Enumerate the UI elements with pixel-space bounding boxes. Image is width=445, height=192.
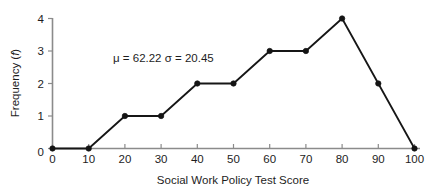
chart-figure: 0 1 2 3 4 0 10 20 30 40 50: [0, 0, 445, 192]
mean-sigma-annotation: μ = 62.22 σ = 20.45: [113, 52, 214, 64]
x-tick-label-90: 90: [372, 153, 385, 165]
y-axis-tick-labels: 0 1 2 3 4: [38, 13, 45, 159]
data-point: [158, 113, 163, 118]
x-tick-label-0: 0: [49, 153, 55, 165]
y-tick-label-0: 0: [38, 146, 44, 158]
y-axis-title-prefix: Frequency (: [9, 56, 21, 118]
x-tick-label-80: 80: [336, 153, 349, 165]
data-point: [339, 16, 344, 21]
data-point: [195, 81, 200, 86]
x-tick-label-100: 100: [405, 153, 424, 165]
x-tick-label-40: 40: [191, 153, 204, 165]
frequency-data-points: [50, 16, 417, 151]
data-point: [50, 146, 55, 151]
x-tick-label-30: 30: [155, 153, 168, 165]
y-tick-label-3: 3: [38, 45, 44, 57]
x-tick-label-50: 50: [227, 153, 240, 165]
y-axis-title-suffix: ): [9, 49, 21, 53]
data-point: [303, 48, 308, 53]
x-tick-label-70: 70: [300, 153, 313, 165]
y-tick-label-2: 2: [38, 78, 44, 90]
y-tick-label-4: 4: [38, 13, 45, 25]
data-point: [412, 146, 417, 151]
x-axis-title: Social Work Policy Test Score: [157, 174, 309, 186]
x-axis-tick-labels: 0 10 20 30 40 50 60 70 80 90 100: [49, 153, 424, 165]
y-axis-title: Frequency (f): [9, 49, 21, 118]
frequency-polygon-chart: 0 1 2 3 4 0 10 20 30 40 50: [0, 0, 445, 192]
data-point: [267, 48, 272, 53]
data-point: [231, 81, 236, 86]
data-point: [122, 113, 127, 118]
data-point: [86, 146, 91, 151]
y-tick-label-1: 1: [38, 110, 44, 122]
data-point: [376, 81, 381, 86]
x-tick-label-10: 10: [82, 153, 95, 165]
x-tick-label-20: 20: [119, 153, 132, 165]
x-tick-label-60: 60: [263, 153, 276, 165]
